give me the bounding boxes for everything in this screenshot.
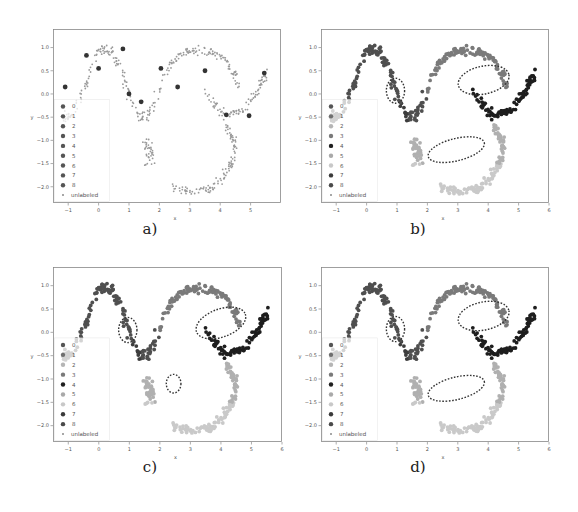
scatter-panel-b: 012345678unlabeled1.00.50.0−0.5−1.0−1.5−… xyxy=(321,29,549,203)
svg-text:0.5: 0.5 xyxy=(309,306,317,312)
svg-text:4: 4 xyxy=(340,143,344,149)
svg-text:5: 5 xyxy=(249,207,252,213)
svg-text:2: 2 xyxy=(426,207,429,213)
svg-text:1.0: 1.0 xyxy=(41,282,49,288)
svg-text:x: x xyxy=(174,215,177,221)
svg-text:3: 3 xyxy=(189,446,192,452)
svg-text:−1.5: −1.5 xyxy=(37,160,49,166)
svg-text:1: 1 xyxy=(128,446,131,452)
svg-text:6: 6 xyxy=(340,163,344,169)
plot-area: 012345678unlabeled1.00.50.0−0.5−1.0−1.5−… xyxy=(53,29,281,203)
svg-text:−0.5: −0.5 xyxy=(305,352,317,358)
highlight-ellipse xyxy=(426,132,487,168)
svg-text:7: 7 xyxy=(340,411,344,417)
svg-text:−2.0: −2.0 xyxy=(37,184,49,190)
svg-text:x: x xyxy=(442,215,445,221)
svg-text:3: 3 xyxy=(72,133,76,139)
svg-text:0.0: 0.0 xyxy=(309,329,317,335)
highlight-ellipse xyxy=(166,374,181,393)
svg-text:0.0: 0.0 xyxy=(41,91,49,97)
svg-text:1: 1 xyxy=(395,207,398,213)
svg-text:8: 8 xyxy=(72,421,76,427)
svg-text:−1.0: −1.0 xyxy=(305,137,317,143)
svg-text:−1.5: −1.5 xyxy=(37,399,49,405)
svg-text:4: 4 xyxy=(72,143,76,149)
scatter-panel-c: 012345678unlabeled1.00.50.0−0.5−1.0−1.5−… xyxy=(53,267,282,442)
svg-text:0: 0 xyxy=(365,446,368,452)
svg-text:2: 2 xyxy=(158,446,161,452)
svg-text:3: 3 xyxy=(188,207,191,213)
svg-text:2: 2 xyxy=(340,123,344,129)
legend: 012345678unlabeled xyxy=(323,338,378,441)
svg-text:1: 1 xyxy=(72,113,76,119)
svg-text:5: 5 xyxy=(340,391,344,397)
svg-text:0.5: 0.5 xyxy=(309,68,317,74)
svg-text:0: 0 xyxy=(365,207,368,213)
svg-text:5: 5 xyxy=(250,446,253,452)
svg-text:y: y xyxy=(299,114,302,121)
svg-text:2: 2 xyxy=(340,362,344,368)
svg-text:8: 8 xyxy=(72,182,76,188)
plot-area: 012345678unlabeled1.00.50.0−0.5−1.0−1.5−… xyxy=(321,29,549,203)
svg-text:5: 5 xyxy=(72,391,76,397)
svg-text:3: 3 xyxy=(456,446,459,452)
svg-text:−2.0: −2.0 xyxy=(37,422,49,428)
highlight-ellipse xyxy=(426,370,487,406)
legend: 012345678unlabeled xyxy=(55,338,110,441)
svg-text:−1.0: −1.0 xyxy=(37,137,49,143)
svg-text:0: 0 xyxy=(97,207,100,213)
svg-text:0.5: 0.5 xyxy=(41,68,49,74)
svg-text:−2.0: −2.0 xyxy=(305,184,317,190)
svg-text:y: y xyxy=(299,353,302,360)
svg-text:7: 7 xyxy=(72,172,76,178)
panel-caption-b: b) xyxy=(398,220,438,238)
svg-text:4: 4 xyxy=(340,382,344,388)
svg-text:6: 6 xyxy=(547,446,550,452)
svg-text:0.0: 0.0 xyxy=(309,91,317,97)
svg-text:5: 5 xyxy=(340,153,344,159)
svg-text:2: 2 xyxy=(426,446,429,452)
svg-text:unlabeled: unlabeled xyxy=(339,192,366,198)
svg-text:5: 5 xyxy=(517,207,520,213)
svg-text:−1: −1 xyxy=(333,207,340,213)
svg-text:x: x xyxy=(442,454,445,460)
svg-text:0: 0 xyxy=(72,342,76,348)
svg-text:3: 3 xyxy=(340,372,344,378)
svg-text:7: 7 xyxy=(72,411,76,417)
svg-text:1.0: 1.0 xyxy=(309,44,317,50)
svg-text:−2.0: −2.0 xyxy=(305,422,317,428)
plot-area: 012345678unlabeled1.00.50.0−0.5−1.0−1.5−… xyxy=(53,267,282,442)
svg-text:4: 4 xyxy=(219,446,222,452)
svg-text:−1.0: −1.0 xyxy=(305,376,317,382)
svg-text:8: 8 xyxy=(340,182,344,188)
svg-text:−1.5: −1.5 xyxy=(305,399,317,405)
scatter-panel-d: 012345678unlabeled1.00.50.0−0.5−1.0−1.5−… xyxy=(321,267,549,442)
svg-text:1: 1 xyxy=(395,446,398,452)
legend: 012345678unlabeled xyxy=(323,100,378,202)
scatter-panel-a: 012345678unlabeled1.00.50.0−0.5−1.0−1.5−… xyxy=(53,29,281,203)
svg-text:x: x xyxy=(174,454,177,460)
svg-text:0.5: 0.5 xyxy=(41,306,49,312)
svg-text:y: y xyxy=(31,114,34,121)
svg-text:6: 6 xyxy=(72,401,76,407)
highlight-ellipse xyxy=(192,301,250,345)
svg-text:1: 1 xyxy=(340,352,344,358)
svg-text:8: 8 xyxy=(340,421,344,427)
panel-caption-d: d) xyxy=(398,458,438,476)
svg-text:unlabeled: unlabeled xyxy=(71,192,98,198)
svg-text:1: 1 xyxy=(340,113,344,119)
svg-text:6: 6 xyxy=(72,163,76,169)
svg-text:−0.5: −0.5 xyxy=(37,114,49,120)
svg-text:0: 0 xyxy=(340,342,344,348)
svg-text:4: 4 xyxy=(487,207,490,213)
svg-text:−0.5: −0.5 xyxy=(37,352,49,358)
svg-text:5: 5 xyxy=(72,153,76,159)
panel-caption-a: a) xyxy=(130,220,170,238)
svg-text:−0.5: −0.5 xyxy=(305,114,317,120)
svg-text:1.0: 1.0 xyxy=(309,282,317,288)
svg-text:4: 4 xyxy=(487,446,490,452)
svg-text:1.0: 1.0 xyxy=(41,44,49,50)
svg-text:4: 4 xyxy=(219,207,222,213)
svg-text:0: 0 xyxy=(72,103,76,109)
svg-text:−1: −1 xyxy=(65,446,72,452)
